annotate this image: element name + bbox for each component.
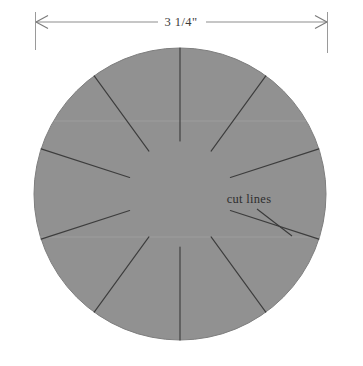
- cut-lines-label: cut lines: [227, 192, 272, 206]
- diagram-root: 3 1/4" cut lines: [0, 0, 363, 366]
- dimension-label: 3 1/4": [165, 15, 198, 29]
- diagram-canvas: 3 1/4" cut lines: [0, 0, 363, 366]
